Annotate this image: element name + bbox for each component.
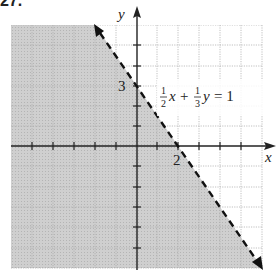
x-intercept-label: 2 bbox=[173, 152, 181, 168]
svg-text:1: 1 bbox=[195, 85, 200, 96]
svg-text:x: x bbox=[168, 88, 176, 104]
x-axis-label: x bbox=[264, 149, 272, 165]
inequality-graph: x y 3 2 1 2 x + 1 3 y = 1 bbox=[0, 0, 278, 275]
y-intercept-label: 3 bbox=[118, 78, 126, 94]
svg-text:3: 3 bbox=[195, 98, 200, 109]
svg-text:2: 2 bbox=[161, 98, 166, 109]
equation-label: 1 2 x + 1 3 y = 1 bbox=[157, 80, 265, 116]
svg-text:= 1: = 1 bbox=[214, 88, 234, 104]
svg-text:y: y bbox=[201, 88, 210, 104]
y-axis-label: y bbox=[116, 6, 125, 22]
svg-text:1: 1 bbox=[161, 85, 166, 96]
svg-text:+: + bbox=[180, 88, 188, 104]
